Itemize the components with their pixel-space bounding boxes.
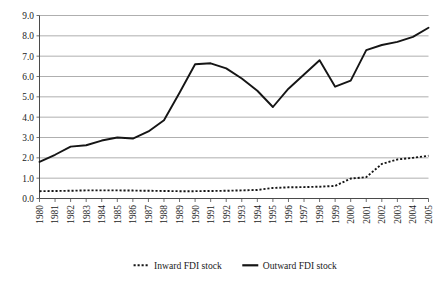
y-tick-label: 2.0 <box>22 153 34 163</box>
x-tick-label: 2001 <box>362 205 372 224</box>
y-tick-label: 5.0 <box>22 92 34 102</box>
x-tick-label: 1990 <box>191 205 201 224</box>
x-tick-label: 1993 <box>237 205 247 224</box>
gridlines-group <box>40 16 429 179</box>
x-tick-label: 1994 <box>253 205 263 224</box>
legend-label: Outward FDI stock <box>263 260 337 271</box>
x-tick-label: 1995 <box>268 205 278 224</box>
x-tick-label: 1998 <box>315 205 325 224</box>
y-tick-label: 0.0 <box>22 194 34 204</box>
x-tick-label: 1996 <box>284 205 294 224</box>
x-tick-label: 1992 <box>222 205 232 224</box>
x-tick-label: 1989 <box>175 205 185 224</box>
x-axis-tick-labels: 1980198119821983198419851986198719881989… <box>35 205 434 224</box>
x-tick-label: 1986 <box>128 205 138 224</box>
series-line-outward-fdi-stock <box>40 28 429 162</box>
x-tick-label: 2004 <box>408 205 418 224</box>
y-tick-label: 7.0 <box>22 52 34 62</box>
x-tick-label: 1987 <box>144 205 154 224</box>
x-tick-label: 1980 <box>35 205 45 224</box>
x-tick-label: 1982 <box>66 205 76 224</box>
y-tick-label: 8.0 <box>22 31 34 41</box>
x-tick-label: 1984 <box>97 205 107 224</box>
y-tick-label: 6.0 <box>22 72 34 82</box>
y-tick-label: 4.0 <box>22 113 34 123</box>
fdi-stock-line-chart: 0.01.02.03.04.05.06.07.08.09.0 198019811… <box>0 0 437 284</box>
x-tick-label: 1985 <box>113 205 123 224</box>
y-tick-label: 1.0 <box>22 174 34 184</box>
x-tick-label: 2005 <box>424 205 434 224</box>
x-tick-label: 2003 <box>393 205 403 224</box>
chart-canvas: 0.01.02.03.04.05.06.07.08.09.0 198019811… <box>0 0 437 284</box>
y-axis-tick-labels: 0.01.02.03.04.05.06.07.08.09.0 <box>22 11 34 204</box>
y-tick-label: 9.0 <box>22 11 34 21</box>
x-tick-label: 1983 <box>82 205 92 224</box>
x-tick-marks-group <box>40 199 429 203</box>
x-tick-label: 1988 <box>159 205 169 224</box>
x-tick-label: 2000 <box>346 205 356 224</box>
x-tick-label: 1999 <box>331 205 341 224</box>
x-tick-label: 1997 <box>299 205 309 224</box>
legend-label: Inward FDI stock <box>154 260 222 271</box>
x-tick-label: 2002 <box>377 205 387 224</box>
x-tick-label: 1981 <box>50 205 60 224</box>
series-line-inward-fdi-stock <box>40 156 429 191</box>
y-tick-label: 3.0 <box>22 133 34 143</box>
chart-legend: Inward FDI stockOutward FDI stock <box>134 260 337 271</box>
x-tick-label: 1991 <box>206 205 216 224</box>
